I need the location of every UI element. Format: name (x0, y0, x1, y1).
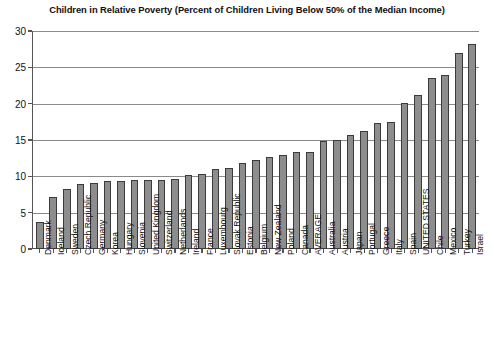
x-axis-label: Mexico (449, 228, 458, 255)
x-axis-label: Slovenia (138, 222, 147, 255)
x-axis-label: Japan (354, 232, 363, 255)
x-axis-tick-mark (161, 249, 162, 253)
x-axis-tick-mark (309, 249, 310, 253)
x-axis-label-slot: Mexico (438, 255, 452, 335)
bar[interactable] (455, 53, 463, 249)
x-axis-tick-mark (418, 249, 419, 253)
x-axis-label-slot: Estonia (236, 255, 250, 335)
x-axis-label: Italy (395, 239, 404, 255)
x-axis-label-slot: United Kingdom (141, 255, 155, 335)
x-axis-tick-mark (134, 249, 135, 253)
y-axis-tick-label: 20 (0, 98, 26, 109)
x-axis-label: Spain (408, 233, 417, 255)
x-axis-tick-mark (80, 249, 81, 253)
x-axis-label-slot: Slovenia (128, 255, 142, 335)
x-axis-tick-mark (66, 249, 67, 253)
x-axis-tick-mark (337, 249, 338, 253)
x-axis-label-slot: Iceland (47, 255, 61, 335)
x-axis-label: Denmark (43, 220, 52, 255)
x-axis-label-slot: Japan (344, 255, 358, 335)
x-axis-tick-mark (364, 249, 365, 253)
x-axis-label-slot: Spain (398, 255, 412, 335)
x-axis-tick-mark (215, 249, 216, 253)
x-axis-label-slot: Sweden (60, 255, 74, 335)
x-axis-label: Poland (287, 228, 296, 255)
x-axis-label: Hungary (124, 223, 133, 255)
x-axis-label: Canada (300, 225, 309, 255)
x-axis-label: Switzerland (165, 211, 174, 255)
x-axis-tick-mark (458, 249, 459, 253)
x-axis-label: Sweden (70, 224, 79, 255)
y-axis-tick-label: 5 (0, 207, 26, 218)
x-axis-label-slot: Israel (466, 255, 480, 335)
x-axis-tick-mark (404, 249, 405, 253)
y-axis-tick-mark (28, 67, 32, 68)
x-axis-tick-mark (107, 249, 108, 253)
x-axis-tick-mark (445, 249, 446, 253)
x-axis-label: Slovak Republic (233, 193, 242, 255)
x-axis-label-slot: AVERAGE (303, 255, 317, 335)
x-axis-label: France (206, 228, 215, 255)
x-axis-label: Iceland (57, 227, 66, 255)
x-axis-label: Luxembourg (219, 207, 228, 255)
bar-slot (344, 31, 358, 249)
bar-slot (249, 31, 263, 249)
bar[interactable] (441, 75, 449, 249)
y-axis-tick-mark (28, 176, 32, 177)
bar-slot (101, 31, 115, 249)
x-axis-tick-mark (282, 249, 283, 253)
x-axis-label-slot: Belgium (249, 255, 263, 335)
bar-slot (371, 31, 385, 249)
x-axis-label-slot: Czech Republic (74, 255, 88, 335)
y-axis-tick-label: 0 (0, 244, 26, 255)
bar-slot (466, 31, 480, 249)
x-axis-label: UNITED STATES (422, 188, 431, 255)
x-axis-label: Turkey (462, 229, 471, 255)
y-axis-tick-label: 30 (0, 26, 26, 37)
x-axis-label: Belgium (260, 224, 269, 255)
x-axis-label: United Kingdom (151, 194, 160, 255)
x-axis-label-slot: Denmark (33, 255, 47, 335)
x-axis-label-slot: Korea (101, 255, 115, 335)
x-axis-tick-mark (350, 249, 351, 253)
x-axis-tick-mark (431, 249, 432, 253)
x-axis-label-slot: New Zealand (263, 255, 277, 335)
x-axis-label-slot: Portugal (357, 255, 371, 335)
x-axis-label: Austria (341, 228, 350, 255)
x-axis-label: Ireland (192, 229, 201, 255)
bar-slot (384, 31, 398, 249)
x-axis-label: New Zealand (273, 204, 282, 255)
y-axis-tick-label: 10 (0, 171, 26, 182)
x-axis-label-slot: Poland (276, 255, 290, 335)
x-axis-label: Portugal (368, 223, 377, 255)
x-axis-label-slot: Switzerland (155, 255, 169, 335)
x-axis-label-slot: France (195, 255, 209, 335)
x-axis-tick-mark (323, 249, 324, 253)
y-axis: 302520151050 (0, 31, 34, 249)
x-axis-label: Czech Republic (84, 195, 93, 255)
bar[interactable] (468, 44, 476, 249)
x-axis-label-slot: Slovak Republic (222, 255, 236, 335)
x-axis-label-slot: Greece (371, 255, 385, 335)
x-axis-label-slot: Netherlands (168, 255, 182, 335)
y-axis-tick-label: 15 (0, 135, 26, 146)
x-axis-label: AVERAGE (314, 214, 323, 255)
x-axis-label: Greece (381, 227, 390, 255)
x-axis-tick-mark (255, 249, 256, 253)
x-axis-label-slot: Turkey (452, 255, 466, 335)
bar[interactable] (401, 103, 409, 249)
x-axis-tick-mark (174, 249, 175, 253)
x-axis-label-slot: Germany (87, 255, 101, 335)
bars-container (33, 31, 479, 249)
x-axis-label: Netherlands (179, 209, 188, 255)
x-axis-tick-mark (39, 249, 40, 253)
x-axis-tick-mark (53, 249, 54, 253)
x-axis-tick-mark (242, 249, 243, 253)
x-axis-tick-mark (269, 249, 270, 253)
poverty-bar-chart: Children in Relative Poverty (Percent of… (0, 0, 494, 338)
bar-slot (33, 31, 47, 249)
y-axis-tick-mark (28, 248, 32, 249)
x-axis-tick-mark (120, 249, 121, 253)
bar-slot (47, 31, 61, 249)
bar-slot (330, 31, 344, 249)
